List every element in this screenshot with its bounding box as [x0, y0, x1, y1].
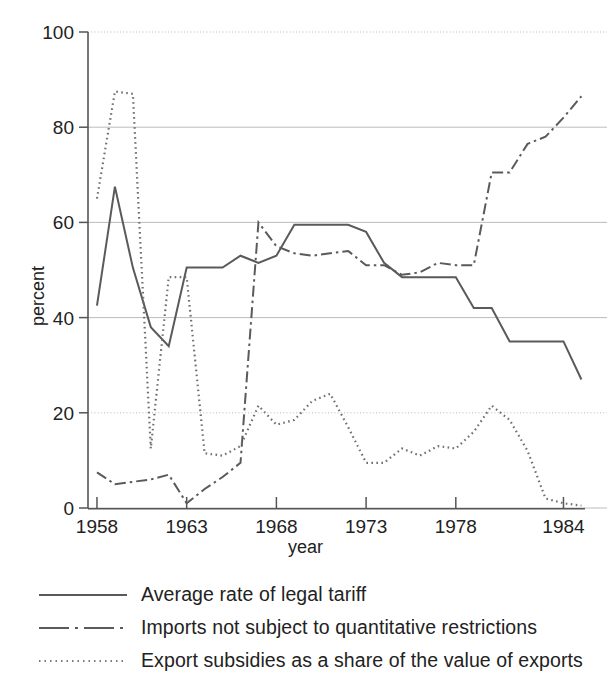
y-tick-label-20: 20	[53, 403, 74, 424]
legend-key-dashdot-icon	[37, 621, 129, 635]
x-tick-label-1958: 1958	[76, 516, 118, 537]
series-line-1	[97, 96, 581, 503]
legend-label-1: Imports not subject to quantitative rest…	[129, 616, 537, 639]
legend-label-0: Average rate of legal tariff	[129, 583, 366, 606]
x-tick-label-1973: 1973	[345, 516, 387, 537]
x-tick-label-1978: 1978	[435, 516, 477, 537]
legend-key-solid-icon	[37, 588, 129, 602]
gridlines	[88, 32, 607, 508]
y-axis-ticks	[79, 32, 88, 508]
y-tick-label-60: 60	[53, 212, 74, 233]
series-line-2	[97, 92, 581, 506]
chart-figure: 020406080100 195819631968197319781984 pe…	[0, 0, 611, 677]
legend-label-2: Export subsidies as a share of the value…	[129, 649, 583, 672]
x-tick-label-1984: 1984	[542, 516, 585, 537]
line-chart-plot: 020406080100 195819631968197319781984	[0, 0, 611, 577]
data-series-group	[97, 92, 581, 506]
legend-item-export-subsidies-as-a-share-of-the-value-of-exports: Export subsidies as a share of the value…	[0, 644, 611, 677]
legend-item-average-rate-of-legal-tariff: Average rate of legal tariff	[0, 578, 611, 611]
y-tick-label-80: 80	[53, 117, 74, 138]
y-tick-label-100: 100	[42, 22, 74, 43]
x-tick-label-1968: 1968	[255, 516, 297, 537]
series-line-0	[97, 187, 581, 380]
chart-legend: Average rate of legal tariff Imports not…	[0, 578, 611, 677]
y-tick-label-40: 40	[53, 308, 74, 329]
x-axis-ticks	[97, 497, 563, 508]
x-axis-title: year	[0, 537, 611, 558]
legend-item-imports-not-subject-to-quantitative-restrictions: Imports not subject to quantitative rest…	[0, 611, 611, 644]
x-tick-label-1963: 1963	[166, 516, 208, 537]
y-tick-label-0: 0	[63, 498, 74, 519]
y-axis-title: percent	[28, 266, 49, 326]
legend-key-dotted-icon	[37, 654, 129, 668]
x-axis-tick-labels: 195819631968197319781984	[76, 516, 585, 537]
